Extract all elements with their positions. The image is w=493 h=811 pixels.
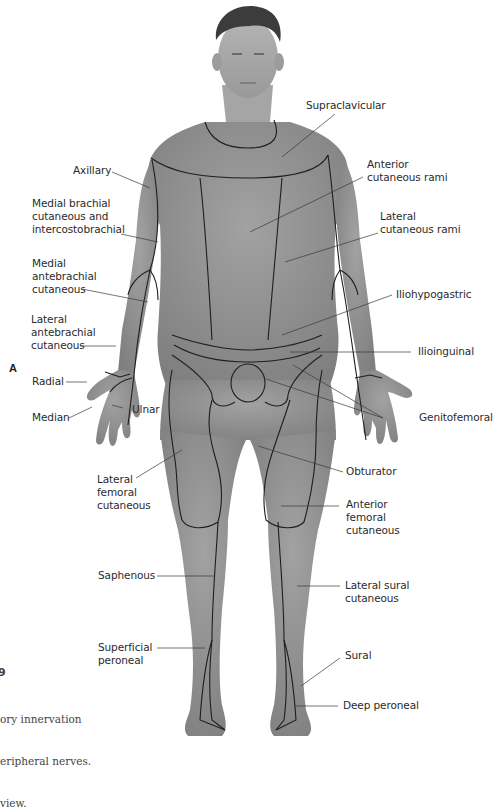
label-ilioinguinal: Ilioinguinal — [418, 345, 474, 358]
label-radial: Radial — [32, 375, 64, 388]
label-obturator: Obturator — [346, 465, 396, 478]
head — [212, 6, 284, 98]
label-ulnar: Ulnar — [132, 403, 160, 416]
caption-line-3: view. — [0, 796, 91, 810]
label-axillary: Axillary — [73, 164, 111, 177]
label-anterior-femoral-cutaneous: Anterior femoral cutaneous — [346, 498, 400, 537]
figure-caption: ory innervation eripheral nerves. view. — [0, 684, 91, 811]
label-median: Median — [32, 411, 70, 424]
label-anterior-cutaneous-rami: Anterior cutaneous rami — [367, 158, 447, 184]
label-saphenous: Saphenous — [98, 569, 155, 582]
label-superficial-peroneal: Superficial peroneal — [98, 641, 152, 667]
label-supraclavicular: Supraclavicular — [306, 99, 386, 112]
panel-letter: A — [9, 362, 17, 374]
label-sural: Sural — [345, 649, 372, 662]
label-deep-peroneal: Deep peroneal — [343, 699, 419, 712]
caption-line-2: eripheral nerves. — [0, 754, 91, 768]
label-medial-antebrachial-cutaneous: Medial antebrachial cutaneous — [32, 257, 97, 296]
label-medial-brachial-cutaneous: Medial brachial cutaneous and intercosto… — [32, 197, 125, 236]
figure-number: 9 — [0, 666, 6, 679]
label-lateral-cutaneous-rami: Lateral cutaneous rami — [380, 210, 460, 236]
label-lateral-femoral-cutaneous: Lateral femoral cutaneous — [97, 473, 151, 512]
label-lateral-antebrachial-cutaneous: Lateral antebrachial cutaneous — [31, 313, 96, 352]
label-lateral-sural-cutaneous: Lateral sural cutaneous — [345, 579, 409, 605]
caption-line-1: ory innervation — [0, 712, 91, 726]
label-iliohypogastric: Iliohypogastric — [396, 288, 472, 301]
label-genitofemoral: Genitofemoral — [419, 411, 493, 424]
